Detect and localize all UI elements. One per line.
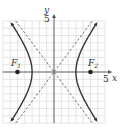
- hyperbola-diagram: y 5 x 5 F1 F2: [0, 0, 129, 130]
- focus-point: [15, 70, 20, 75]
- y-axis-arrow-icon: [52, 14, 56, 18]
- focus-label-f2: F2: [87, 58, 98, 69]
- focus-label-f1: F1: [10, 58, 21, 69]
- focus-point: [88, 70, 93, 75]
- x-tick-label: 5: [103, 74, 109, 84]
- x-axis-label: x: [112, 73, 117, 83]
- y-tick-label: 5: [44, 14, 50, 24]
